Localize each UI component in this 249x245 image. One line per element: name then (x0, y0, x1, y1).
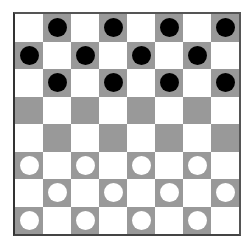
board-square[interactable] (99, 42, 127, 70)
board-square[interactable] (99, 14, 127, 42)
board-square[interactable] (127, 179, 155, 207)
white-checker-piece[interactable] (188, 156, 207, 175)
board-square[interactable] (99, 152, 127, 180)
board-square[interactable] (99, 97, 127, 125)
black-checker-piece[interactable] (188, 46, 207, 65)
board-square[interactable] (43, 42, 71, 70)
board-square[interactable] (211, 97, 239, 125)
board-square[interactable] (155, 124, 183, 152)
board-square[interactable] (15, 42, 43, 70)
board-square[interactable] (15, 14, 43, 42)
board-square[interactable] (127, 14, 155, 42)
board-square[interactable] (183, 97, 211, 125)
board-square[interactable] (15, 179, 43, 207)
black-checker-piece[interactable] (48, 73, 67, 92)
board-square[interactable] (155, 69, 183, 97)
board-square[interactable] (211, 124, 239, 152)
board-square[interactable] (99, 69, 127, 97)
board-square[interactable] (127, 207, 155, 235)
board-square[interactable] (155, 42, 183, 70)
black-checker-piece[interactable] (76, 46, 95, 65)
board-square[interactable] (183, 207, 211, 235)
checkers-board (13, 12, 241, 236)
board-square[interactable] (183, 124, 211, 152)
black-checker-piece[interactable] (104, 18, 123, 37)
board-square[interactable] (43, 14, 71, 42)
board-square[interactable] (155, 179, 183, 207)
black-checker-piece[interactable] (216, 73, 235, 92)
board-square[interactable] (71, 69, 99, 97)
board-square[interactable] (43, 207, 71, 235)
white-checker-piece[interactable] (76, 211, 95, 230)
board-square[interactable] (127, 69, 155, 97)
white-checker-piece[interactable] (132, 211, 151, 230)
board-square[interactable] (43, 179, 71, 207)
board-square[interactable] (43, 97, 71, 125)
board-square[interactable] (71, 124, 99, 152)
black-checker-piece[interactable] (104, 73, 123, 92)
board-square[interactable] (71, 207, 99, 235)
white-checker-piece[interactable] (48, 183, 67, 202)
board-square[interactable] (15, 69, 43, 97)
board-square[interactable] (43, 124, 71, 152)
white-checker-piece[interactable] (20, 211, 39, 230)
board-square[interactable] (211, 179, 239, 207)
board-square[interactable] (183, 152, 211, 180)
board-square[interactable] (211, 14, 239, 42)
board-square[interactable] (155, 207, 183, 235)
board-square[interactable] (155, 97, 183, 125)
board-square[interactable] (71, 14, 99, 42)
white-checker-piece[interactable] (216, 183, 235, 202)
board-square[interactable] (71, 179, 99, 207)
board-square[interactable] (211, 207, 239, 235)
board-square[interactable] (99, 207, 127, 235)
board-square[interactable] (99, 179, 127, 207)
board-square[interactable] (43, 69, 71, 97)
board-square[interactable] (155, 14, 183, 42)
board-square[interactable] (43, 152, 71, 180)
white-checker-piece[interactable] (76, 156, 95, 175)
board-square[interactable] (183, 69, 211, 97)
board-square[interactable] (211, 42, 239, 70)
board-square[interactable] (127, 124, 155, 152)
black-checker-piece[interactable] (132, 46, 151, 65)
white-checker-piece[interactable] (160, 183, 179, 202)
black-checker-piece[interactable] (20, 46, 39, 65)
black-checker-piece[interactable] (48, 18, 67, 37)
board-square[interactable] (15, 207, 43, 235)
board-square[interactable] (211, 69, 239, 97)
white-checker-piece[interactable] (104, 183, 123, 202)
board-square[interactable] (211, 152, 239, 180)
white-checker-piece[interactable] (20, 156, 39, 175)
board-square[interactable] (71, 97, 99, 125)
black-checker-piece[interactable] (160, 18, 179, 37)
board-square[interactable] (71, 152, 99, 180)
board-square[interactable] (155, 152, 183, 180)
board-square[interactable] (127, 97, 155, 125)
white-checker-piece[interactable] (132, 156, 151, 175)
board-square[interactable] (183, 42, 211, 70)
board-square[interactable] (183, 179, 211, 207)
white-checker-piece[interactable] (188, 211, 207, 230)
board-square[interactable] (15, 152, 43, 180)
board-square[interactable] (15, 97, 43, 125)
board-square[interactable] (99, 124, 127, 152)
board-square[interactable] (183, 14, 211, 42)
board-square[interactable] (15, 124, 43, 152)
board-square[interactable] (127, 42, 155, 70)
black-checker-piece[interactable] (160, 73, 179, 92)
black-checker-piece[interactable] (216, 18, 235, 37)
board-square[interactable] (127, 152, 155, 180)
board-square[interactable] (71, 42, 99, 70)
